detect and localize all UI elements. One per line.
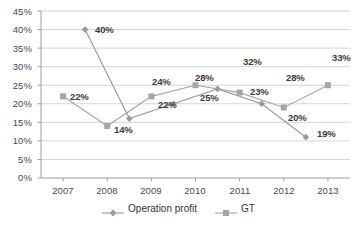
data-label-gt-2012: 20%	[288, 112, 307, 123]
y-tick-label-45: 45%	[2, 6, 32, 17]
square-marker-icon	[215, 204, 237, 214]
data-label-gt-2011: 23%	[250, 86, 269, 97]
x-tick-label-2013: 2013	[306, 185, 350, 196]
y-tick-label-25: 25%	[2, 80, 32, 91]
data-point-gt-2011	[237, 90, 243, 96]
y-tick-label-35: 35%	[2, 43, 32, 54]
x-axis-ticks	[63, 178, 328, 182]
data-label-op-2011: 32%	[243, 56, 262, 67]
x-tick-label-2011: 2011	[218, 185, 262, 196]
chart-container: 45% 40% 35% 30% 25% 20% 15% 10% 5% 0% 20…	[0, 0, 357, 229]
legend-entry-operation-profit[interactable]: Operation profit	[102, 203, 197, 214]
data-point-gt-2009	[148, 93, 154, 99]
x-tick-label-2009: 2009	[129, 185, 173, 196]
data-point-gt-2013	[325, 82, 331, 88]
legend-label-gt: GT	[241, 203, 255, 214]
data-label-op-2012: 28%	[286, 72, 305, 83]
data-label-gt-2013: 33%	[332, 52, 351, 63]
x-tick-label-2010: 2010	[173, 185, 217, 196]
x-tick-label-2008: 2008	[85, 185, 129, 196]
data-point-gt-2008	[104, 123, 110, 129]
data-point-gt-2007	[60, 93, 66, 99]
diamond-marker-icon	[102, 204, 124, 214]
data-label-gt-2009: 22%	[158, 99, 177, 110]
legend-entry-gt[interactable]: GT	[215, 203, 255, 214]
y-tick-label-20: 20%	[2, 98, 32, 109]
y-tick-label-10: 10%	[2, 135, 32, 146]
y-tick-label-40: 40%	[2, 24, 32, 35]
data-label-gt-2007: 22%	[70, 91, 89, 102]
data-label-op-2013: 19%	[317, 128, 336, 139]
data-label-gt-2008: 14%	[114, 124, 133, 135]
x-tick-label-2012: 2012	[262, 185, 306, 196]
y-tick-label-15: 15%	[2, 117, 32, 128]
data-label-op-2010: 28%	[195, 72, 214, 83]
y-axis-ticks	[38, 11, 42, 178]
data-label-op-2008: 40%	[95, 24, 114, 35]
x-tick-label-2007: 2007	[41, 185, 85, 196]
data-label-op-2009: 24%	[152, 76, 171, 87]
data-point-gt-2012	[281, 104, 287, 110]
y-tick-label-5: 5%	[2, 154, 32, 165]
y-tick-label-0: 0%	[2, 172, 32, 183]
chart-legend: Operation profit GT	[0, 203, 357, 214]
legend-label-operation-profit: Operation profit	[128, 203, 197, 214]
y-tick-label-30: 30%	[2, 61, 32, 72]
data-label-gt-2010: 25%	[200, 92, 219, 103]
data-point-gt-2010	[193, 82, 199, 88]
